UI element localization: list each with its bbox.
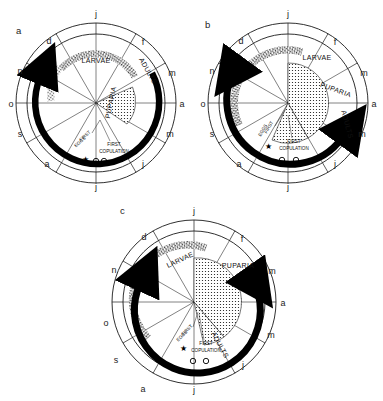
svg-text:FIRST: FIRST [199,341,212,346]
svg-text:COPULATION: COPULATION [191,348,221,353]
month-label-a1: a [371,99,376,109]
month-label-j3: j [192,385,195,395]
panel-c: c [96,198,292,401]
month-label-j1: j [94,9,97,19]
svg-text:EGGS: EGGS [175,329,188,342]
month-label-a2: a [236,159,241,169]
month-label-n: n [17,66,22,76]
month-label-j1: j [286,9,289,19]
svg-text:FIRST: FIRST [107,142,120,147]
month-label-j3: j [94,182,97,192]
month-label-j2: j [333,159,336,169]
panel-b: b [192,0,383,200]
month-label-f: f [334,37,337,47]
month-label-d: d [141,232,146,242]
month-label-n: n [209,66,214,76]
svg-text:COPULATION: COPULATION [279,146,309,151]
month-label-n: n [111,265,116,275]
panel-b-letter: b [205,20,210,30]
month-label-m1: m [168,68,176,78]
month-label-j1: j [192,206,195,216]
month-label-d: d [46,36,51,46]
larvae-label: LARVAE [165,250,194,269]
month-label-o: o [200,99,205,109]
first-eggs-annotation: FIRST EGGS [175,312,198,342]
month-label-a1: a [280,298,285,308]
month-label-s: s [210,129,215,139]
month-label-f: f [241,234,244,244]
month-label-d: d [238,36,243,46]
panel-a-wheel: j f m a m j j a s o n d LARVAE PUPARIA A… [0,0,192,200]
circle-marker-2 [203,358,208,363]
month-label-a2: a [44,159,49,169]
svg-text:FIRST: FIRST [287,139,300,144]
month-label-a1: a [179,99,184,109]
puparia-label: PUPARIA [222,262,254,269]
month-label-o: o [103,318,108,328]
star-marker: ★ [180,344,187,353]
month-label-m2: m [358,129,366,139]
panel-c-letter: c [120,206,125,216]
month-label-j2: j [241,360,244,370]
panel-b-wheel: j f m a m j j a s o n d LARVAE PUPARIA A… [192,0,383,200]
panel-a-letter: a [16,26,21,36]
larvae-label: LARVAE [303,54,332,61]
month-label-j3: j [286,182,289,192]
larvae-label: LARVAE [82,57,111,64]
larvae-band-tail [51,67,60,101]
month-label-m1: m [360,68,368,78]
star-marker: ★ [265,142,272,151]
adults-label: ADULTS [340,109,354,139]
panel-a: a [0,0,192,200]
month-label-m2: m [166,129,174,139]
figure-canvas: a [0,0,383,401]
month-label-m2: m [267,330,275,340]
month-label-j2: j [141,159,144,169]
circle-marker-1 [190,358,195,363]
panel-c-wheel: j f m a m j j a s o n d LARVAE PUPARIA A… [96,198,292,401]
month-label-a2: a [140,384,145,394]
month-label-s: s [18,129,23,139]
month-label-o: o [8,99,13,109]
svg-text:COPULATION: COPULATION [99,149,129,154]
svg-text:EGGS: EGGS [73,136,86,149]
first-copulation-annotation: FIRST COPULATION [99,120,129,154]
star-marker: ★ [82,155,89,164]
month-label-m1: m [268,266,276,276]
adults-label: ADULTS [138,56,159,85]
month-label-s: s [114,355,119,365]
month-label-f: f [142,37,145,47]
